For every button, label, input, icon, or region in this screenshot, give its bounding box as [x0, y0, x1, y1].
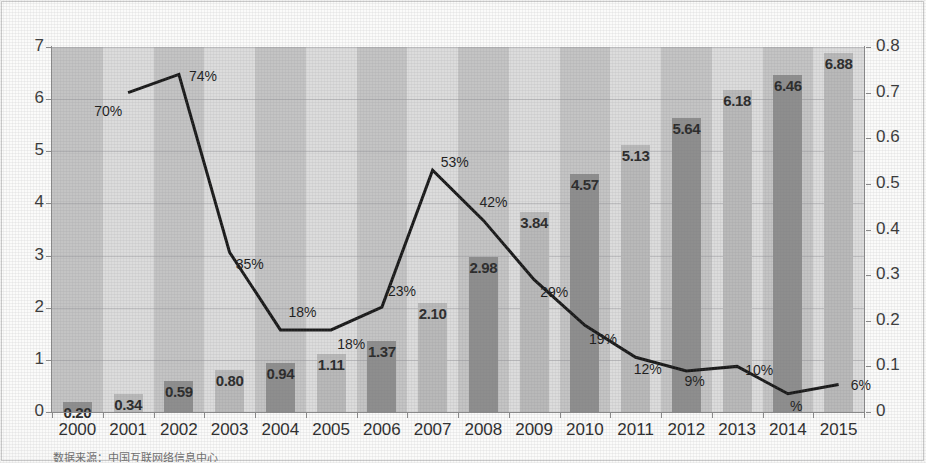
growth-rate-label-2004: 18% — [288, 304, 316, 320]
x-axis-tick — [712, 412, 713, 418]
left-axis-tick-label: 5 — [4, 140, 44, 160]
right-axis-tick-label: 0 — [876, 401, 922, 421]
x-axis-tick — [610, 412, 611, 418]
bar-value-label-2003: 0.80 — [209, 372, 250, 389]
x-axis-label-2009: 2009 — [509, 420, 560, 440]
growth-rate-line — [128, 74, 839, 393]
left-axis-tick-label: 7 — [4, 36, 44, 56]
x-axis-tick — [763, 412, 764, 418]
x-axis-label-2010: 2010 — [560, 420, 611, 440]
right-axis-tick-label: 0.1 — [876, 355, 922, 375]
x-axis-tick — [357, 412, 358, 418]
left-axis-tick — [46, 47, 51, 48]
growth-rate-label-2008: 42% — [479, 194, 507, 210]
x-axis-tick — [509, 412, 510, 418]
growth-rate-label-2002: 74% — [189, 68, 217, 84]
x-axis-label-2004: 2004 — [255, 420, 306, 440]
bar-value-label-2011: 5.13 — [615, 147, 656, 164]
x-axis-label-2002: 2002 — [154, 420, 205, 440]
x-axis-label-2012: 2012 — [661, 420, 712, 440]
bar-value-label-2009: 3.84 — [514, 214, 555, 231]
x-axis-label-2005: 2005 — [306, 420, 357, 440]
bar-value-label-2006: 1.37 — [361, 343, 402, 360]
left-axis-tick — [46, 308, 51, 309]
left-axis-tick — [46, 99, 51, 100]
bar-value-label-2010: 4.57 — [564, 176, 605, 193]
x-axis-label-2013: 2013 — [712, 420, 763, 440]
x-axis-tick — [407, 412, 408, 418]
growth-rate-label-2009: 29% — [540, 284, 568, 300]
source-note: 数据来源：中国互联网络信息中心 — [53, 449, 218, 462]
right-axis-tick-label: 0.3 — [876, 264, 922, 284]
right-axis-tick — [866, 321, 871, 322]
x-axis-tick — [306, 412, 307, 418]
right-axis-tick — [866, 230, 871, 231]
right-axis-tick — [866, 275, 871, 276]
x-axis-label-2001: 2001 — [103, 420, 154, 440]
left-axis-tick-label: 3 — [4, 245, 44, 265]
growth-rate-label-2003: 35% — [236, 256, 264, 272]
growth-rate-label-2013: 10% — [745, 362, 773, 378]
growth-rate-label-2001: 70% — [94, 103, 122, 119]
bar-value-label-2007: 2.10 — [412, 305, 453, 322]
right-axis-tick-label: 0.5 — [876, 173, 922, 193]
left-axis-tick — [46, 412, 51, 413]
x-axis-label-2007: 2007 — [407, 420, 458, 440]
growth-rate-label-2010: 19% — [589, 331, 617, 347]
right-axis-line — [864, 46, 865, 413]
bar-value-label-2005: 1.11 — [311, 356, 352, 373]
bar-value-label-2008: 2.98 — [463, 259, 504, 276]
left-axis-tick-label: 4 — [4, 192, 44, 212]
left-axis-tick-label: 1 — [4, 349, 44, 369]
bar-value-label-2015: 6.88 — [818, 55, 859, 72]
growth-rate-label-2015: 6% — [851, 377, 871, 393]
x-axis-label-2006: 2006 — [357, 420, 408, 440]
left-axis-tick — [46, 203, 51, 204]
x-axis-label-2003: 2003 — [204, 420, 255, 440]
x-axis-tick — [560, 412, 561, 418]
right-axis-tick-label: 0.8 — [876, 36, 922, 56]
x-axis-tick — [813, 412, 814, 418]
growth-rate-label-2012: 9% — [684, 373, 704, 389]
right-axis-tick-label: 0.2 — [876, 310, 922, 330]
right-axis-tick-label: 0.4 — [876, 219, 922, 239]
bar-value-label-2012: 5.64 — [666, 120, 707, 137]
right-axis-tick-label: 0.6 — [876, 127, 922, 147]
x-axis-tick — [204, 412, 205, 418]
bar-value-label-2002: 0.59 — [158, 383, 199, 400]
bar-value-label-2014: 6.46 — [767, 77, 808, 94]
growth-rate-label-2006: 23% — [388, 283, 416, 299]
left-axis-tick — [46, 151, 51, 152]
right-axis-tick — [866, 138, 871, 139]
left-axis-tick-label: 0 — [4, 401, 44, 421]
chart-figure: 0.200.340.590.800.941.111.372.102.983.84… — [0, 0, 926, 463]
x-axis-label-2008: 2008 — [458, 420, 509, 440]
left-axis-tick-label: 6 — [4, 88, 44, 108]
left-axis-tick — [46, 360, 51, 361]
left-axis-line — [51, 46, 52, 413]
right-axis-tick — [866, 184, 871, 185]
left-axis-tick-label: 2 — [4, 297, 44, 317]
right-axis-tick — [866, 366, 871, 367]
x-axis-tick — [103, 412, 104, 418]
x-axis-tick — [154, 412, 155, 418]
x-axis-label-2015: 2015 — [813, 420, 864, 440]
bar-value-label-2013: 6.18 — [717, 92, 758, 109]
bar-value-label-2004: 0.94 — [260, 365, 301, 382]
growth-rate-label-2011: 12% — [634, 361, 662, 377]
left-axis-tick — [46, 256, 51, 257]
growth-rate-label-2007: 53% — [441, 154, 469, 170]
x-axis-label-2011: 2011 — [610, 420, 661, 440]
bar-value-label-2001: 0.34 — [108, 396, 149, 413]
x-axis-tick — [661, 412, 662, 418]
growth-rate-label-2005: 18% — [337, 336, 365, 352]
x-axis-label-2014: 2014 — [763, 420, 814, 440]
right-axis-tick-label: 0.7 — [876, 82, 922, 102]
x-axis-tick — [864, 412, 865, 418]
x-axis-label-2000: 2000 — [52, 420, 103, 440]
x-axis-tick — [255, 412, 256, 418]
right-axis-tick — [866, 93, 871, 94]
right-axis-tick — [866, 47, 871, 48]
right-axis-tick — [866, 412, 871, 413]
x-axis-tick — [52, 412, 53, 418]
